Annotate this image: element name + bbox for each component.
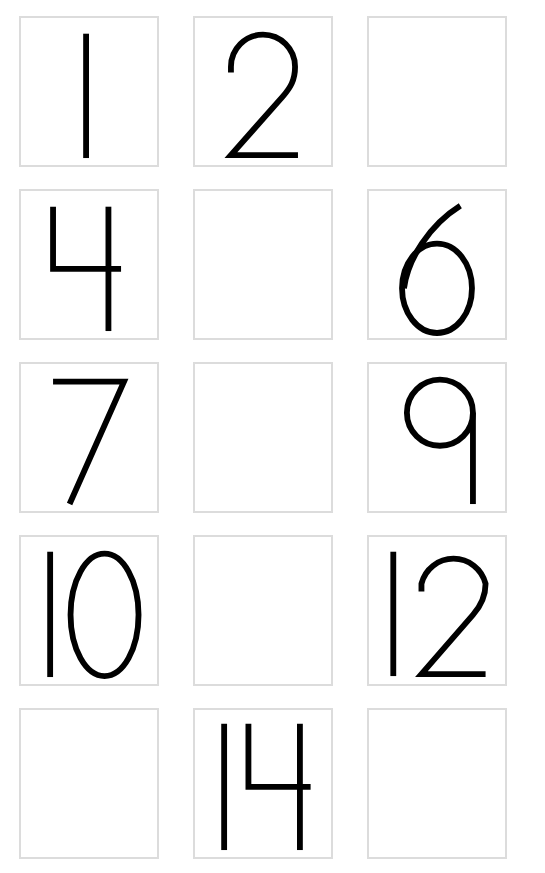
digit-12-glyph: [369, 537, 505, 684]
blank-box-5[interactable]: [193, 189, 333, 340]
digit-1-glyph: [21, 18, 157, 165]
blank-box-3[interactable]: [367, 16, 507, 167]
number-box-4: 4: [19, 189, 159, 340]
blank-box-15[interactable]: [367, 708, 507, 859]
number-box-7: 7: [19, 362, 159, 513]
number-box-10: 10: [19, 535, 159, 686]
digit-6-glyph: [369, 191, 505, 338]
blank-box-13[interactable]: [19, 708, 159, 859]
blank-box-11[interactable]: [193, 535, 333, 686]
digit-14-glyph: [195, 710, 331, 857]
number-box-9: 9: [367, 362, 507, 513]
digit-7-glyph: [21, 364, 157, 511]
blank-box-8[interactable]: [193, 362, 333, 513]
number-box-1: 1: [19, 16, 159, 167]
digit-4-glyph: [21, 191, 157, 338]
number-box-14: 14: [193, 708, 333, 859]
digit-9-glyph: [369, 364, 505, 511]
digit-2-glyph: [195, 18, 331, 165]
digit-10-glyph: [21, 537, 157, 684]
number-box-2: 2: [193, 16, 333, 167]
number-box-12: 12: [367, 535, 507, 686]
number-box-6: 6: [367, 189, 507, 340]
